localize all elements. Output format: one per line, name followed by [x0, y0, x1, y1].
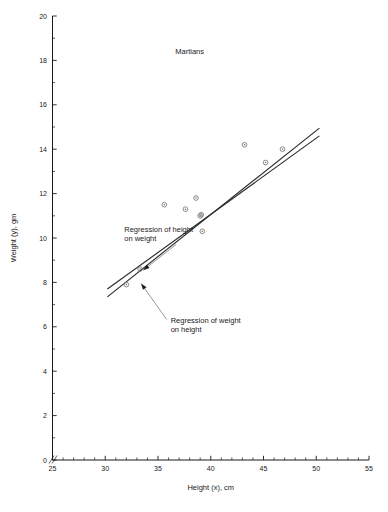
y-tick-label: 8 [43, 279, 47, 286]
regression-line [107, 136, 319, 289]
data-point [263, 160, 268, 165]
data-point [162, 202, 167, 207]
tick-labels: 2530354045505502468101214161820 [39, 13, 373, 472]
regression-weight-on-height-label-line1: Regression of weight [171, 316, 242, 325]
scatter-plot: 2530354045505502468101214161820 Regressi… [0, 0, 388, 512]
x-tick-label: 45 [260, 465, 268, 472]
x-tick-label: 55 [365, 465, 373, 472]
x-tick-label: 50 [312, 465, 320, 472]
chart-group-title: Martians [175, 47, 204, 56]
minor-ticks [53, 38, 359, 460]
regression-height-on-weight-label-line1: Regression of height [124, 225, 194, 234]
data-points [124, 142, 285, 287]
y-tick-label: 6 [43, 323, 47, 330]
x-tick-label: 35 [154, 465, 162, 472]
major-ticks [53, 16, 370, 460]
x-tick-label: 25 [49, 465, 57, 472]
data-point [194, 196, 199, 201]
data-point [198, 213, 203, 218]
regression-height-on-weight-leader [143, 244, 176, 270]
regression-weight-on-height-leader [141, 284, 167, 320]
annotations: Regression of heighton weightRegression … [124, 225, 241, 334]
y-tick-label: 2 [43, 412, 47, 419]
data-point [124, 282, 129, 287]
y-tick-label: 4 [43, 368, 47, 375]
y-tick-label: 0 [43, 457, 47, 464]
data-point [280, 147, 285, 152]
data-point [200, 229, 205, 234]
data-point [242, 142, 247, 147]
y-tick-label: 14 [39, 146, 47, 153]
y-tick-label: 16 [39, 101, 47, 108]
regression-weight-on-height-arrowhead [141, 284, 146, 290]
regression-height-on-weight-label-line2: on weight [124, 234, 157, 243]
y-axis-title: Weight (y), gm [9, 214, 18, 263]
regression-weight-on-height-label-line2: on height [171, 325, 203, 334]
y-tick-label: 10 [39, 235, 47, 242]
y-tick-label: 18 [39, 57, 47, 64]
y-tick-label: 12 [39, 190, 47, 197]
x-tick-label: 40 [207, 465, 215, 472]
axes [49, 16, 369, 464]
data-point [183, 207, 188, 212]
data-point [199, 212, 204, 217]
x-axis-title: Height (x), cm [187, 483, 234, 492]
y-tick-label: 20 [39, 13, 47, 20]
x-tick-label: 30 [101, 465, 109, 472]
chart-canvas: 2530354045505502468101214161820 Regressi… [0, 0, 388, 512]
